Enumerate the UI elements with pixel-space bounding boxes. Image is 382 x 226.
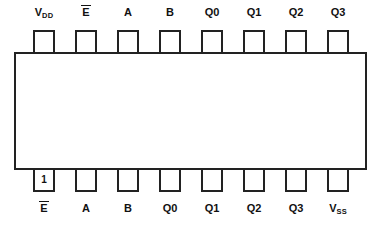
pin-label-text: Q1 [205, 202, 220, 214]
pin-label-bottom-vss: VSS [317, 201, 359, 219]
pin-label-bottom-q2: Q2 [233, 201, 275, 219]
pin-label-bottom-b: B [107, 201, 149, 219]
pin-top-q2 [285, 30, 307, 52]
pin-top-e [75, 30, 97, 52]
pin-label-top-b: B [149, 5, 191, 23]
pin-label-top-q1: Q1 [233, 5, 275, 23]
pin-label-text: E [81, 5, 91, 19]
pin-bottom-vss [327, 170, 349, 192]
pin-top-q0 [201, 30, 223, 52]
pin-label-text: Q2 [289, 6, 304, 18]
bottom-pin-labels: E A B Q0 Q1 Q2 Q3 VSS [23, 201, 359, 219]
pin-label-bottom-q0: Q0 [149, 201, 191, 219]
pin-label-text: B [166, 6, 174, 18]
pin-label-text: E [39, 201, 49, 215]
pin-top-q1 [243, 30, 265, 52]
pin-bottom-q3 [285, 170, 307, 192]
pin-label-top-q3: Q3 [317, 5, 359, 23]
pin-label-top-q2: Q2 [275, 5, 317, 23]
pin-label-top-e: E [65, 5, 107, 23]
pin-label-bottom-q1: Q1 [191, 201, 233, 219]
pin-bottom-a [75, 170, 97, 192]
pin-label-text: Q3 [289, 202, 304, 214]
pin-label-text: V [35, 6, 42, 18]
pin-label-top-vdd: VDD [23, 5, 65, 23]
pin1-number: 1 [41, 175, 47, 185]
pin-top-a [117, 30, 139, 52]
pin-label-text: A [82, 202, 90, 214]
pin-bottom-q0 [159, 170, 181, 192]
pin-label-bottom-e: E [23, 201, 65, 219]
pin-label-bottom-q3: Q3 [275, 201, 317, 219]
pin-label-subscript: DD [42, 11, 53, 20]
pin-label-text: A [124, 6, 132, 18]
top-pins [33, 30, 349, 52]
pin-top-q3 [327, 30, 349, 52]
pin-bottom-q1 [201, 170, 223, 192]
bottom-pins: 1 [33, 170, 349, 192]
ic-pinout-diagram: VDD E A B Q0 Q1 Q2 Q3 1 E A B Q0 Q1 [0, 0, 382, 226]
pin-top-vdd [33, 30, 55, 52]
pin-label-text: Q2 [247, 202, 262, 214]
pin-label-text: Q0 [205, 6, 220, 18]
pin-label-top-q0: Q0 [191, 5, 233, 23]
pin-top-b [159, 30, 181, 52]
ic-body [14, 52, 367, 170]
pin-label-text: Q1 [247, 6, 262, 18]
top-pin-labels: VDD E A B Q0 Q1 Q2 Q3 [23, 5, 359, 23]
pin-bottom-q2 [243, 170, 265, 192]
pin-label-text: B [124, 202, 132, 214]
pin-label-bottom-a: A [65, 201, 107, 219]
pin-bottom-e-pin1: 1 [33, 170, 55, 192]
pin-label-text: Q0 [163, 202, 178, 214]
pin-label-subscript: SS [336, 207, 346, 216]
pin-label-top-a: A [107, 5, 149, 23]
pin-label-text: Q3 [331, 6, 346, 18]
pin-bottom-b [117, 170, 139, 192]
